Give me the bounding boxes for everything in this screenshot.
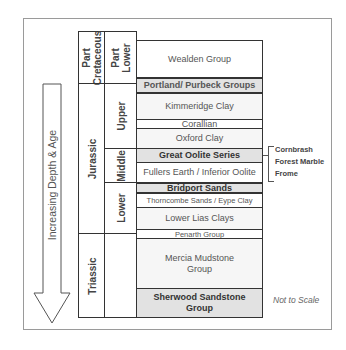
unit-wealden-group: Wealden Group	[136, 40, 263, 78]
period-part-cretaceous: PartCretaceous	[78, 31, 105, 84]
unit-thorncombe-sands: Thorncombe Sands / Eype Clay	[136, 193, 263, 208]
unit-fullers-earth: Fullers Earth / Inferior Oolite	[136, 162, 263, 183]
period-jurassic: Jurassic	[78, 83, 105, 234]
not-to-scale-note: Not to Scale	[273, 295, 319, 305]
brace-icon	[268, 146, 274, 182]
unit-kimmeridge-clay: Kimmeridge Clay	[136, 93, 263, 120]
epoch-upper: Upper	[104, 83, 137, 149]
unit-great-oolite-series: Great Oolite Series	[136, 148, 263, 163]
period-triassic: Triassic	[78, 233, 105, 318]
unit-portland-purbeck: Portland/ Purbeck Groups	[136, 77, 263, 94]
unit-lower-lias-clays: Lower Lias Clays	[136, 207, 263, 230]
epoch-middle: Middle	[104, 148, 137, 183]
epoch-triassic-blank	[104, 233, 137, 318]
arrow-label: Increasing Depth & Age	[46, 130, 58, 240]
epoch-part-lower: PartLower	[104, 31, 137, 84]
unit-mercia-mudstone: Mercia MudstoneGroup	[136, 238, 263, 289]
great-oolite-members: Cornbrash Forest Marble Frome	[275, 144, 324, 180]
epoch-lower: Lower	[104, 182, 137, 234]
unit-sherwood-sandstone: Sherwood SandstoneGroup	[136, 288, 263, 318]
unit-oxford-clay: Oxford Clay	[136, 128, 263, 149]
